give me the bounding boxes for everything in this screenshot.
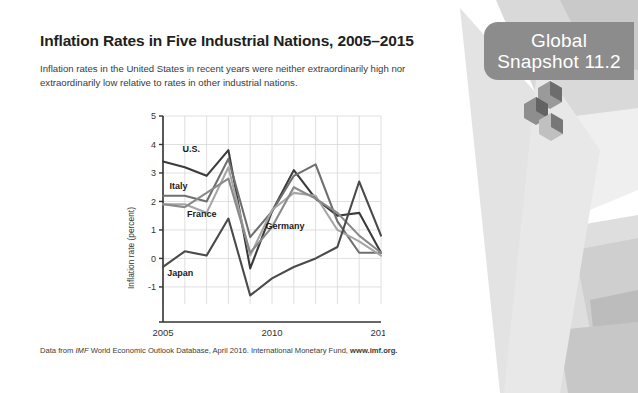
x-tick-label: 2015 [370, 327, 385, 338]
source-italic: IMF [75, 346, 88, 355]
series-label-italy: Italy [170, 181, 188, 191]
source-middle: World Economic Outlook Database, April 2… [89, 346, 351, 355]
y-tick-label: 0 [151, 254, 156, 264]
y-tick-label: -1 [148, 282, 156, 292]
y-tick-label: 2 [151, 197, 156, 207]
global-snapshot-badge: Global Snapshot 11.2 [484, 22, 634, 80]
page-subtitle: Inflation rates in the United States in … [40, 62, 430, 90]
series-label-france: France [187, 209, 217, 219]
y-axis-title: Inflation rate (percent) [126, 207, 136, 289]
slide-root: Global Snapshot 11.2 Inflation Rates in … [0, 0, 638, 393]
x-tick-label: 2005 [152, 327, 173, 338]
y-tick-label: 1 [151, 225, 156, 235]
chart-xticks: 200520102015 [152, 327, 385, 338]
badge-line-1: Global [484, 30, 634, 51]
source-prefix: Data from [40, 346, 75, 355]
source-link: www.imf.org. [350, 346, 397, 355]
x-tick-label: 2010 [261, 327, 282, 338]
y-tick-label: 5 [151, 111, 156, 121]
page-title: Inflation Rates in Five Industrial Natio… [40, 32, 440, 50]
source-note: Data from IMF World Economic Outlook Dat… [40, 346, 460, 355]
series-label-us: U.S. [183, 144, 201, 154]
series-label-japan: Japan [167, 268, 193, 278]
series-label-germany: Germany [265, 221, 304, 231]
y-tick-label: 4 [151, 140, 156, 150]
badge-line-2: Snapshot 11.2 [484, 51, 634, 72]
line-chart: -1012345 200520102015 U.S.ItalyFranceGer… [120, 108, 385, 343]
chart-yticks: -1012345 [148, 111, 163, 292]
y-tick-label: 3 [151, 168, 156, 178]
